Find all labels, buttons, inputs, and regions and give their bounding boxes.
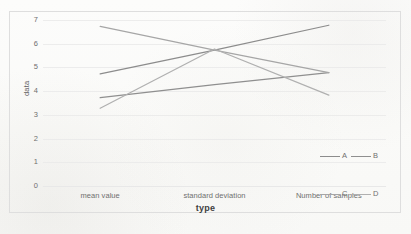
legend-entry-c[interactable]: C	[320, 188, 347, 200]
data-series-lines	[100, 25, 329, 108]
chart-legend: A B C D	[320, 150, 406, 206]
y-tick-label: 2	[22, 135, 38, 143]
y-tick-label: 0	[22, 182, 38, 190]
legend-swatch-a	[320, 156, 340, 157]
series-line-d	[100, 49, 329, 108]
y-tick-label: 1	[22, 158, 38, 166]
line-chart: 76543210 mean valuestandard deviationNum…	[0, 0, 411, 234]
legend-label-a: A	[342, 152, 347, 160]
y-tick-label: 7	[22, 16, 38, 24]
y-tick-label: 5	[22, 63, 38, 71]
legend-entry-b[interactable]: B	[351, 150, 378, 162]
x-tick-label: standard deviation	[155, 191, 275, 200]
legend-label-b: B	[373, 152, 378, 160]
legend-swatch-c	[320, 194, 340, 195]
legend-entry-a[interactable]: A	[320, 150, 347, 162]
legend-label-c: C	[342, 190, 347, 198]
legend-swatch-b	[351, 156, 371, 157]
legend-entry-d[interactable]: D	[351, 188, 378, 200]
legend-row-bottom: C D	[320, 188, 406, 206]
legend-label-d: D	[373, 190, 378, 198]
legend-row-top: A B	[320, 150, 406, 168]
y-tick-label: 3	[22, 111, 38, 119]
series-line-b	[100, 73, 329, 98]
legend-swatch-d	[351, 194, 371, 195]
y-tick-label: 6	[22, 40, 38, 48]
x-tick-label: mean value	[40, 191, 160, 200]
y-axis-title: data	[22, 81, 31, 96]
